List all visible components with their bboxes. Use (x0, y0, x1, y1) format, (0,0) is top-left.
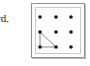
dot-r2-c1 (54, 45, 58, 49)
caption-text-fragment: rd. (0, 11, 26, 25)
dot-r2-c2 (69, 45, 73, 49)
dot-r0-c2 (69, 15, 73, 19)
dot-r2-c0 (38, 45, 42, 49)
dot-r0-c1 (54, 15, 58, 19)
dot-r1-c0 (38, 30, 42, 34)
dot-grid-figure (32, 4, 86, 59)
dot-grid-panel (31, 3, 85, 58)
right-triangle (40, 32, 56, 47)
dot-r1-c1 (54, 30, 58, 34)
dot-r1-c2 (69, 30, 73, 34)
figure-root: rd. (0, 0, 90, 66)
dot-r0-c0 (38, 15, 42, 19)
